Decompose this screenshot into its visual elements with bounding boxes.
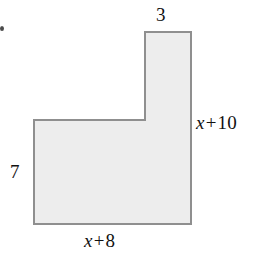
dimension-label-left: 7 (10, 162, 20, 181)
dimension-label-bottom-constant: 8 (106, 230, 116, 251)
dimension-label-right: x+10 (196, 113, 237, 132)
dimension-label-right-constant: 10 (218, 112, 237, 133)
dimension-label-right-variable: x (196, 112, 205, 133)
dimension-label-right-operator: + (205, 112, 218, 133)
dimension-label-bottom-variable: x (84, 230, 93, 251)
dimension-label-top-text: 3 (156, 4, 166, 25)
dimension-label-bottom: x+8 (84, 231, 115, 250)
geometry-figure-canvas: 3 x+10 7 x+8 (0, 0, 267, 257)
dimension-label-left-text: 7 (10, 161, 20, 182)
scan-artifact-mark (0, 26, 4, 31)
dimension-label-bottom-operator: + (93, 230, 106, 251)
l-shaped-polygon (34, 32, 191, 224)
dimension-label-top: 3 (156, 5, 166, 24)
